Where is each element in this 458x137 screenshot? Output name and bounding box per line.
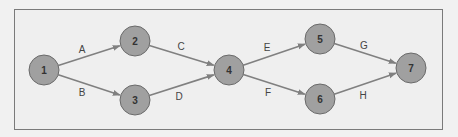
node-6: 6 (305, 84, 335, 114)
node-5: 5 (305, 24, 335, 54)
edge-label-a: A (79, 44, 86, 55)
edge-label-b: B (79, 87, 86, 98)
edge-label-e: E (264, 42, 271, 53)
network-diagram: 1234567 ABCDEFGH (0, 0, 458, 137)
node-label: 4 (226, 65, 232, 76)
node-label: 2 (132, 36, 138, 47)
node-label: 6 (317, 94, 323, 105)
node-2: 2 (120, 26, 150, 56)
node-4: 4 (214, 55, 244, 85)
node-label: 5 (317, 34, 323, 45)
node-label: 3 (132, 95, 138, 106)
edge-label-g: G (360, 40, 368, 51)
node-1: 1 (29, 55, 59, 85)
edge-label-d: D (175, 91, 182, 102)
node-label: 7 (408, 63, 414, 74)
node-7: 7 (396, 53, 426, 83)
edge-label-c: C (177, 41, 184, 52)
node-3: 3 (120, 85, 150, 115)
edge-label-h: H (359, 90, 366, 101)
edge-label-f: F (265, 87, 271, 98)
node-label: 1 (41, 65, 47, 76)
